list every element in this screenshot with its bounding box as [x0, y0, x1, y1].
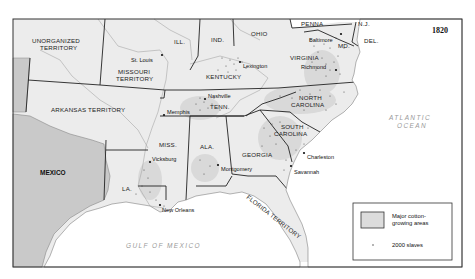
label-nc-1: NORTH	[299, 94, 322, 101]
label-ala: ALA.	[200, 143, 214, 150]
city-dot-nashville	[204, 98, 206, 100]
legend-cotton-label-2: growing areas	[392, 220, 429, 226]
label-gulf-of-mexico: GULF OF MEXICO	[126, 242, 201, 249]
label-atlantic-1: ATLANTIC	[388, 114, 431, 121]
legend: Major cotton- growing areas 2000 slaves	[353, 203, 452, 260]
city-dot-new-orleans	[159, 204, 161, 206]
label-miss: MISS.	[159, 141, 177, 148]
label-penna: PENNA	[301, 20, 324, 27]
label-tenn: TENN.	[210, 103, 230, 110]
label-arkansas: ARKANSAS TERRITORY	[51, 106, 125, 113]
label-virginia: VIRGINIA	[290, 54, 319, 61]
city-dot-lexington	[239, 61, 241, 63]
city-dot-st-louis	[161, 54, 163, 56]
label-atlantic-2: OCEAN	[397, 122, 427, 129]
city-baltimore: Baltimore	[309, 37, 333, 43]
label-ind: IND.	[211, 36, 224, 43]
label-mexico: MEXICO	[40, 169, 66, 176]
city-memphis: Memphis	[167, 109, 190, 115]
city-nashville: Nashville	[208, 93, 231, 99]
label-del: DEL.	[364, 37, 379, 44]
city-montgomery: Montgomery	[221, 166, 252, 172]
legend-box	[353, 203, 452, 260]
city-savannah: Savannah	[294, 169, 319, 175]
label-unorganized-1: UNORGANIZED	[32, 37, 80, 44]
city-st-louis: St. Louis	[131, 57, 153, 63]
city-dot-charleston	[303, 152, 305, 154]
city-dot-savannah	[290, 165, 292, 167]
city-dot-montgomery	[217, 164, 219, 166]
label-missouri-2: TERRITORY	[116, 75, 153, 82]
city-charleston: Charleston	[307, 154, 334, 160]
legend-dot-label: 2000 slaves	[392, 242, 423, 248]
label-sc-2: CAROLINA	[274, 130, 308, 137]
city-dot-richmond	[335, 69, 337, 71]
city-vicksburg: Vicksburg	[152, 156, 176, 162]
city-richmond: Richmond	[301, 64, 326, 70]
label-ill: ILL.	[174, 38, 185, 45]
label-missouri-1: MISSOURI	[118, 68, 150, 75]
city-dot-vicksburg	[149, 161, 151, 163]
label-sc-1: SOUTH	[281, 123, 304, 130]
label-nj: N.J.	[358, 20, 370, 27]
label-la: LA.	[122, 185, 132, 192]
city-dot-memphis	[163, 114, 165, 116]
label-unorganized-2: TERRITORY	[40, 44, 77, 51]
slavery-cotton-map-1820: UNORGANIZED TERRITORY MISSOURI TERRITORY…	[0, 0, 475, 279]
label-md: MD.	[338, 42, 350, 49]
legend-cotton-label-1: Major cotton-	[392, 213, 426, 219]
map-year: 1820	[432, 26, 448, 35]
city-lexington: Lexington	[243, 63, 267, 69]
city-dot-baltimore	[340, 33, 342, 35]
legend-dot-symbol	[372, 244, 373, 245]
label-kentucky: KENTUCKY	[206, 73, 241, 80]
label-ohio: OHIO	[251, 30, 268, 37]
legend-cotton-swatch	[361, 212, 384, 228]
label-nc-2: CAROLINA	[291, 101, 325, 108]
label-georgia: GEORGIA	[242, 151, 273, 158]
city-new-orleans: New Orleans	[162, 207, 195, 213]
